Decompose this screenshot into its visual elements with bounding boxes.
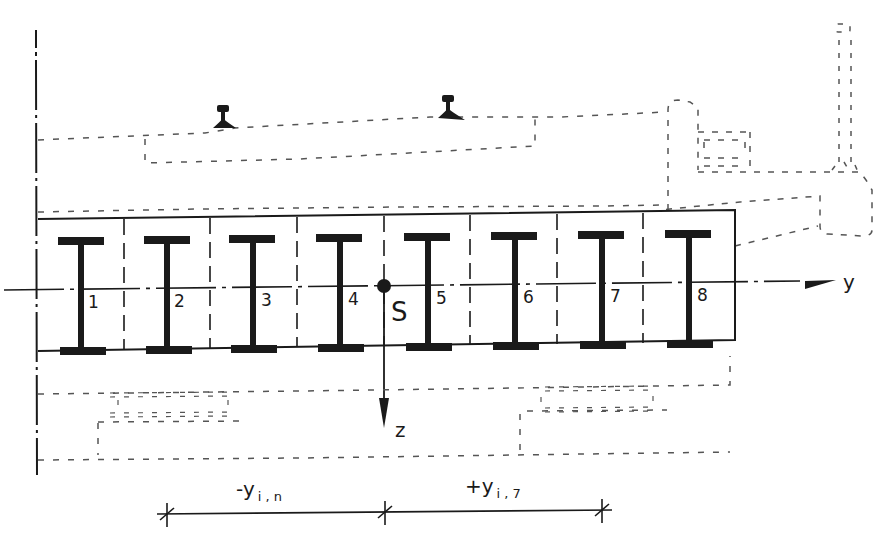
railing-post-outline xyxy=(832,24,858,172)
dim-left-var: y xyxy=(243,477,255,501)
y-axis-label: y xyxy=(843,270,855,294)
dim-right-var: y xyxy=(482,474,494,498)
girder-label-7: 7 xyxy=(610,286,621,306)
girder-label-2: 2 xyxy=(174,291,185,311)
left-boundary-line xyxy=(36,30,37,475)
dim-left-sub: i , n xyxy=(258,489,282,504)
girder-label-3: 3 xyxy=(261,290,272,310)
z-axis-arrow-icon xyxy=(379,398,389,428)
dimension-label-right: +yi , 7 xyxy=(465,474,521,501)
y-axis xyxy=(4,280,836,290)
z-axis xyxy=(379,290,389,428)
svg-text:+yi , 7: +yi , 7 xyxy=(465,474,521,501)
ballast-bed-outline xyxy=(38,112,665,212)
dim-right-sign: + xyxy=(465,474,482,498)
z-axis-label: z xyxy=(395,418,406,442)
dimension-label-left: -yi , n xyxy=(236,477,282,504)
girder-label-8: 8 xyxy=(697,285,708,305)
girder-label-1: 1 xyxy=(88,292,99,312)
girder-label-6: 6 xyxy=(523,287,534,307)
dimension-line xyxy=(157,499,612,527)
dim-right-sub: i , 7 xyxy=(497,486,521,501)
y-axis-arrow-icon xyxy=(805,280,836,289)
centroid-label: S xyxy=(391,297,408,327)
edge-cornice-outline xyxy=(660,100,872,246)
girder-label-4: 4 xyxy=(348,289,359,309)
svg-text:-yi , n: -yi , n xyxy=(236,477,282,504)
rail-left-icon xyxy=(213,105,236,128)
girder-label-5: 5 xyxy=(436,288,447,308)
bridge-cross-section-diagram: y 1 2 3 4 5 6 7 8 S xyxy=(0,0,880,541)
